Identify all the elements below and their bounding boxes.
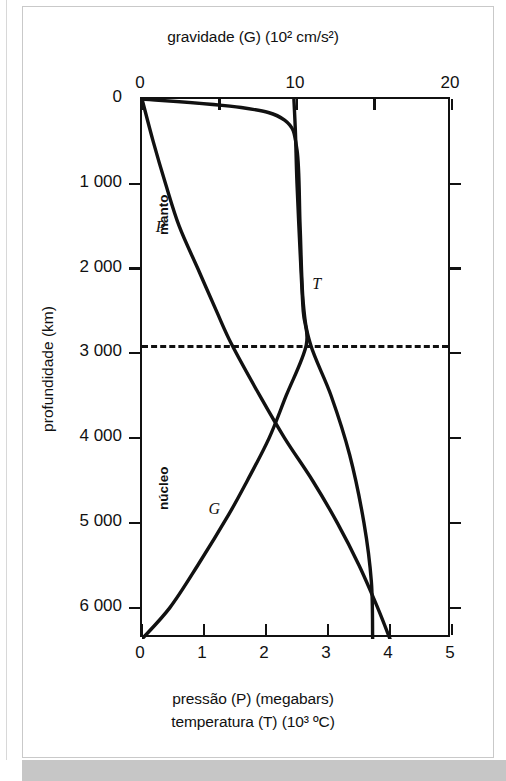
bottom-axis-tick-label: 2 [259,643,268,663]
bottom-axis-tick [451,624,453,635]
bottom-axis-title-pressure: pressão (P) (megabars) [0,690,506,708]
y-axis-tick-label: 1 000 [79,172,122,192]
top-axis-tick [141,99,143,110]
top-axis-tick [296,99,298,110]
y-axis-tick-label: 3 000 [79,341,122,361]
bottom-axis-tick [327,624,329,635]
bottom-axis-tick [265,624,267,635]
plot-area: mantonúcleoPTG [140,97,450,637]
page-left-edge-line [6,0,7,760]
top-axis-tick-label: 10 [286,73,305,93]
y-axis-tick-right [448,607,461,609]
core-mantle-boundary-line [142,345,448,348]
region-label-core: núcleo [156,467,171,511]
page-left-margin [0,0,22,781]
bottom-axis-tick [203,624,205,635]
y-axis-tick [129,267,142,269]
bottom-axis-tick [141,624,143,635]
y-axis-tick [129,352,142,354]
bottom-axis-tick-label: 3 [321,643,330,663]
curve-T [142,99,373,639]
top-axis-tick [218,99,220,110]
y-axis-tick-right [448,437,461,439]
y-axis-tick-label: 0 [113,87,122,107]
y-axis-tick-right [448,183,461,185]
curves-layer [142,99,452,639]
top-axis-tick [373,99,375,110]
bottom-axis-tick-label: 0 [135,643,144,663]
y-axis-tick [129,607,142,609]
bottom-axis-tick-label: 1 [197,643,206,663]
y-axis-tick-label: 5 000 [79,511,122,531]
curve-label-T: T [312,275,321,293]
bottom-axis-tick-label: 4 [383,643,392,663]
y-axis-title: profundidade (km) [39,259,57,479]
curve-G [142,99,307,639]
y-axis-tick [129,183,142,185]
curve-label-G: G [208,500,220,518]
bottom-axis-tick [389,624,391,635]
page-bottom-band [22,760,506,781]
top-axis-tick-label: 0 [135,73,144,93]
top-axis-title: gravidade (G) (10² cm/s²) [0,28,506,46]
figure-page: gravidade (G) (10² cm/s²) profundidade (… [0,0,506,781]
curve-label-P: P [156,218,166,236]
bottom-axis-title-temperature: temperatura (T) (10³ ºC) [0,713,506,731]
y-axis-tick [129,522,142,524]
top-axis-tick [451,99,453,110]
y-axis-tick-label: 6 000 [79,596,122,616]
bottom-axis-tick-label: 5 [445,643,454,663]
top-axis-tick-label: 20 [441,73,460,93]
y-axis-tick [129,437,142,439]
curve-P [142,99,390,639]
y-axis-tick-right [448,267,461,269]
y-axis-tick-right [448,522,461,524]
y-axis-tick-right [448,352,461,354]
y-axis-tick-label: 2 000 [79,257,122,277]
y-axis-tick-label: 4 000 [79,426,122,446]
